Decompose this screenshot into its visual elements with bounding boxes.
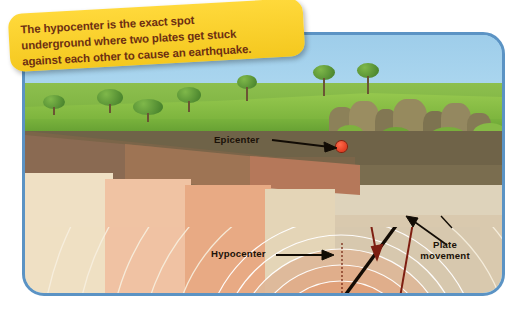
label-epicenter: Epicenter [214,134,260,145]
plate-movement-line1: Plate [433,239,457,250]
diagram-stage: Epicenter Hypocenter Plate movement The … [0,0,525,309]
plate-movement-line2: movement [420,250,470,261]
label-hypocenter: Hypocenter [211,248,266,259]
label-plate-movement: Plate movement [409,240,481,261]
